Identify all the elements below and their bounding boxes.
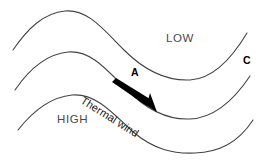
label-low-pressure: LOW: [166, 32, 194, 44]
isoline-middle-contour: [15, 52, 250, 119]
isoline-lower-contour: [18, 95, 253, 153]
diagram-canvas: [0, 0, 261, 165]
isoline-upper-contour: [13, 11, 247, 80]
thermal-wind-diagram: LOW HIGH A C Thermal wind: [0, 0, 261, 165]
label-point-a: A: [131, 66, 139, 78]
label-high-pressure: HIGH: [57, 113, 88, 125]
label-point-c: C: [243, 54, 251, 66]
